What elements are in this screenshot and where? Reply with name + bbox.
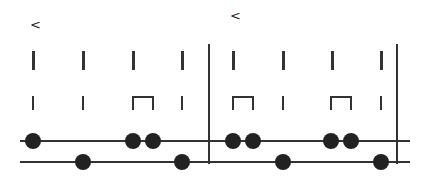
measure-marker-2: < xyxy=(230,9,241,22)
tall-tick xyxy=(282,51,285,70)
tall-tick xyxy=(82,51,85,70)
tall-tick xyxy=(331,51,334,70)
short-tick xyxy=(380,96,382,110)
beat-bracket xyxy=(330,96,352,110)
beat-bracket xyxy=(132,96,154,110)
tall-tick xyxy=(232,51,235,70)
tall-tick xyxy=(181,51,184,70)
onset-dot xyxy=(343,133,359,149)
measure-divider xyxy=(396,44,398,164)
onset-dot xyxy=(125,133,141,149)
rhythm-diagram: < < xyxy=(0,0,430,176)
onset-dot xyxy=(275,154,291,170)
measure-marker-1: < xyxy=(30,18,41,31)
beat-bracket xyxy=(232,96,254,110)
onset-dot xyxy=(323,133,339,149)
onset-dot xyxy=(145,133,161,149)
tall-tick xyxy=(380,51,383,70)
short-tick xyxy=(282,96,284,110)
onset-dot xyxy=(174,154,190,170)
measure-divider xyxy=(208,44,210,164)
onset-dot xyxy=(25,133,41,149)
short-tick xyxy=(82,96,84,110)
onset-dot xyxy=(75,154,91,170)
short-tick xyxy=(32,96,34,110)
short-tick xyxy=(181,96,183,110)
tall-tick xyxy=(132,51,135,70)
onset-dot xyxy=(245,133,261,149)
tall-tick xyxy=(32,51,35,70)
onset-dot xyxy=(373,154,389,170)
onset-dot xyxy=(225,133,241,149)
